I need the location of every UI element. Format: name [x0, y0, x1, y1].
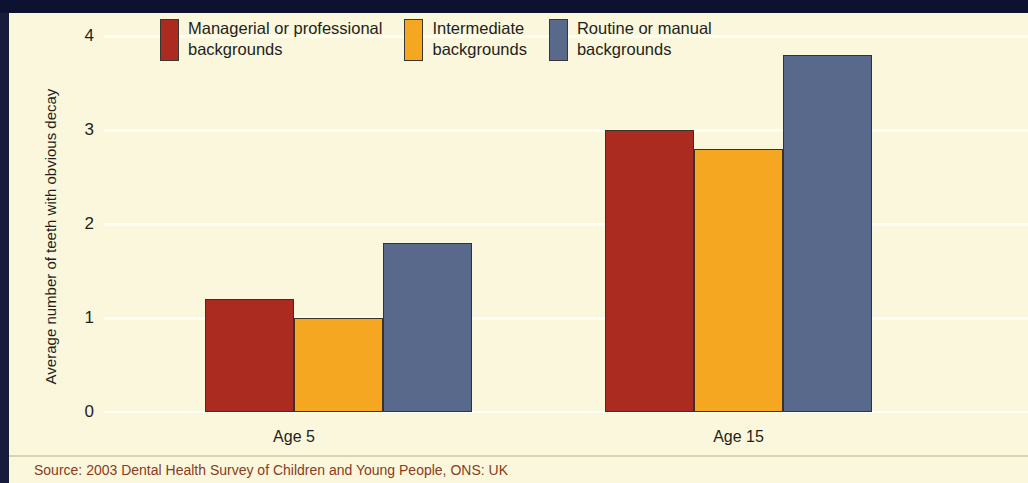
bar-age5-routine: [383, 243, 472, 412]
frame-top-band: [0, 0, 1028, 13]
y-tick-label-0: 0: [66, 403, 94, 420]
x-category-label-age15: Age 15: [605, 428, 872, 446]
gridline-2: [104, 223, 1028, 226]
legend-swatch-managerial-icon: [160, 19, 179, 61]
legend-item-managerial: Managerial or professional backgrounds: [160, 18, 382, 61]
bar-age5-intermediate: [294, 318, 383, 412]
chart-figure: 4 3 2 1 0 Average number of teeth with o…: [0, 0, 1028, 483]
bar-age15-managerial: [605, 130, 694, 412]
chart-legend: Managerial or professional backgrounds I…: [160, 18, 712, 61]
legend-swatch-intermediate-icon: [404, 19, 423, 61]
x-category-label-age5: Age 5: [205, 428, 383, 446]
y-axis-title: Average number of teeth with obvious dec…: [42, 47, 59, 427]
legend-swatch-routine-icon: [549, 19, 568, 61]
legend-label-managerial: Managerial or professional backgrounds: [188, 18, 382, 60]
legend-label-routine: Routine or manual backgrounds: [577, 18, 712, 60]
footer-divider: [9, 455, 1028, 457]
frame-left-band: [0, 13, 9, 483]
legend-label-intermediate: Intermediate backgrounds: [432, 18, 526, 60]
y-tick-label-4: 4: [66, 27, 94, 44]
gridline-3: [104, 129, 1028, 132]
source-note: Source: 2003 Dental Health Survey of Chi…: [34, 462, 508, 478]
y-tick-label-2: 2: [66, 215, 94, 232]
legend-item-intermediate: Intermediate backgrounds: [404, 18, 526, 61]
bar-age5-managerial: [205, 299, 294, 412]
y-tick-label-3: 3: [66, 121, 94, 138]
y-tick-label-1: 1: [66, 309, 94, 326]
bar-age15-routine: [783, 55, 872, 412]
legend-item-routine: Routine or manual backgrounds: [549, 18, 712, 61]
bar-age15-intermediate: [694, 149, 783, 412]
